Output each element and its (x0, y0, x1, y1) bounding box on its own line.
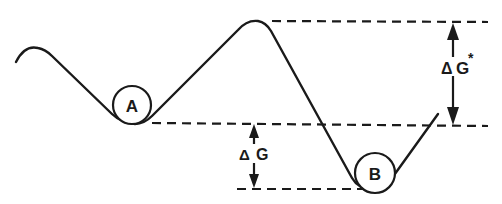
free-energy-delta-symbol: Δ (239, 146, 250, 163)
activation-energy-arrow: Δ G * (441, 23, 474, 125)
barrier-top-line (272, 21, 488, 22)
activation-star-superscript: * (468, 50, 474, 66)
arrow-down-icon (447, 107, 459, 125)
arrow-up-icon (249, 124, 259, 138)
state-a-level-line (152, 123, 488, 126)
energy-diagram-svg: A B Δ G * Δ G (0, 0, 502, 204)
state-b-label: B (369, 165, 381, 184)
energy-diagram: A B Δ G * Δ G (0, 0, 502, 204)
arrow-down-icon (249, 174, 259, 188)
arrow-up-icon (447, 23, 459, 40)
state-a-ball: A (113, 86, 151, 124)
state-b-ball: B (355, 153, 395, 193)
activation-delta-symbol: Δ (441, 60, 453, 77)
state-a-label: A (126, 97, 138, 116)
free-energy-arrow: Δ G (239, 124, 268, 188)
free-energy-g-symbol: G (256, 146, 268, 163)
